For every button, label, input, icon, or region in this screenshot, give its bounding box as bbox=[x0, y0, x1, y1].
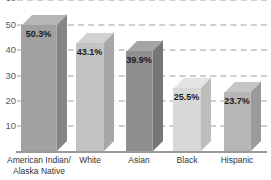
bar-chart: 60 50 40 30 20 10 50.3% 43.1% 39.9% 25.5… bbox=[0, 0, 271, 180]
bar-front-face: 43.1% bbox=[76, 43, 103, 152]
gridline-60 bbox=[17, 0, 267, 1]
bar-front-face: 23.7% bbox=[224, 92, 250, 152]
category-label-line2: Alaska Native bbox=[0, 166, 81, 177]
bar-value-label: 25.5% bbox=[173, 92, 200, 102]
bar-front-face: 39.9% bbox=[126, 51, 152, 152]
bar-side-face bbox=[56, 14, 67, 152]
y-tick-10: 10 bbox=[0, 120, 16, 131]
bar-front-face: 25.5% bbox=[173, 88, 200, 152]
bar-side-face bbox=[250, 81, 261, 152]
y-tick-20: 20 bbox=[0, 95, 16, 106]
category-label-black: Black bbox=[161, 155, 213, 166]
bar-side-face bbox=[103, 32, 114, 152]
x-axis-baseline bbox=[16, 151, 267, 153]
y-tick-40: 40 bbox=[0, 44, 16, 55]
category-label-white: White bbox=[64, 155, 116, 166]
y-tick-60: 60 bbox=[0, 0, 16, 3]
bar-side-face bbox=[152, 40, 163, 152]
y-tick-50: 50 bbox=[0, 19, 16, 30]
category-label-hispanic: Hispanic bbox=[207, 155, 267, 166]
bar-value-label: 50.3% bbox=[21, 29, 56, 39]
y-tick-30: 30 bbox=[0, 70, 16, 81]
category-label-asian: Asian bbox=[114, 155, 164, 166]
bar-side-face bbox=[200, 77, 211, 152]
bar-value-label: 23.7% bbox=[224, 96, 250, 106]
bar-value-label: 39.9% bbox=[126, 55, 152, 65]
bar-front-face: 50.3% bbox=[21, 25, 56, 152]
bar-value-label: 43.1% bbox=[76, 47, 103, 57]
